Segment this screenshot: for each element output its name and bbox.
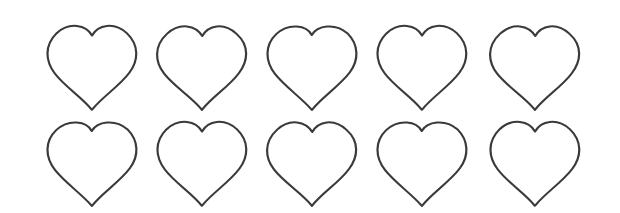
- heart-grid-svg: [0, 0, 620, 213]
- heart-grid-canvas: [0, 0, 620, 213]
